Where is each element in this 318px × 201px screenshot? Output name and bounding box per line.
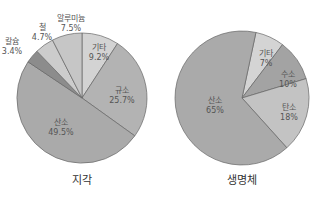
slice-value: 7%	[260, 59, 273, 68]
slice-value: 25.7%	[109, 96, 135, 105]
slice-value: 9.2%	[89, 53, 110, 62]
slice-value: 3.4%	[2, 47, 23, 56]
pie-chart-organism: 기타7%수소10%탄소18%산소65%	[175, 31, 309, 165]
chart-title-crust: 지각	[72, 174, 92, 187]
slice-value: 65%	[206, 106, 224, 115]
slice-label: 수소	[281, 70, 295, 79]
chart-title-organism: 생명체	[227, 174, 257, 187]
slice-label: 규소	[115, 86, 129, 95]
slice-label: 탄소	[282, 102, 296, 112]
slice-value: 4.7%	[32, 33, 53, 42]
slice-label: 기타	[259, 49, 274, 58]
slice-value: 49.5%	[48, 128, 74, 137]
slice-label: 칼슘	[5, 37, 19, 46]
slice-value: 10%	[279, 80, 297, 89]
slice-label: 알루미늄	[57, 13, 85, 23]
slice-label: 산소	[208, 95, 222, 105]
slice-label: 산소	[54, 117, 68, 127]
pie-charts: 기타9.2%규소25.7%산소49.5%칼슘3.4%철4.7%알루미늄7.5% …	[0, 0, 318, 201]
slice-label: 철	[39, 22, 46, 32]
slice-label: 기타	[92, 43, 107, 52]
slice-value: 7.5%	[61, 24, 82, 33]
pie-chart-crust: 기타9.2%규소25.7%산소49.5%칼슘3.4%철4.7%알루미늄7.5%	[2, 13, 147, 163]
slice-value: 18%	[280, 113, 298, 122]
